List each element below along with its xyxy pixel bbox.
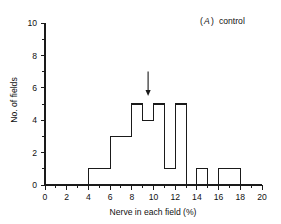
panel-title: ( A ) control — [200, 16, 245, 26]
panel-label-open-paren: ( — [200, 16, 203, 26]
x-tick-label: 20 — [257, 192, 267, 202]
histogram-outline — [88, 104, 251, 185]
y-tick-label: 0 — [32, 180, 37, 190]
x-tick-label: 6 — [108, 192, 113, 202]
x-tick-label: 8 — [129, 192, 134, 202]
panel-letter: A — [203, 16, 210, 26]
y-tick-label: 2 — [32, 148, 37, 158]
annotation-arrow — [146, 72, 151, 96]
y-axis-ticks — [41, 23, 46, 185]
x-tick-label: 4 — [86, 192, 91, 202]
x-tick-label: 18 — [236, 192, 246, 202]
y-tick-label: 10 — [27, 18, 37, 28]
x-tick-label: 14 — [192, 192, 202, 202]
histogram-plot: 02468101214161820 0246810 Nerve in each … — [0, 0, 281, 224]
x-tick-label: 10 — [149, 192, 159, 202]
panel-caption: control — [219, 16, 245, 26]
y-axis-title: No. of fields — [9, 77, 19, 122]
x-axis-title: Nerve in each field (%) — [110, 207, 197, 217]
arrow-head — [146, 90, 151, 96]
histogram-step-path — [88, 104, 251, 185]
y-tick-label: 8 — [32, 51, 37, 61]
x-tick-label: 2 — [64, 192, 69, 202]
x-tick-label: 16 — [214, 192, 224, 202]
x-tick-label: 0 — [43, 192, 48, 202]
y-tick-label: 4 — [32, 115, 37, 125]
x-axis-ticks — [45, 185, 262, 190]
y-axis-tick-labels: 0246810 — [27, 18, 37, 190]
panel-label-close-paren: ) — [211, 16, 214, 26]
x-tick-label: 12 — [170, 192, 180, 202]
histogram-figure: 02468101214161820 0246810 Nerve in each … — [0, 0, 281, 224]
y-tick-label: 6 — [32, 83, 37, 93]
x-axis-tick-labels: 02468101214161820 — [43, 192, 267, 202]
